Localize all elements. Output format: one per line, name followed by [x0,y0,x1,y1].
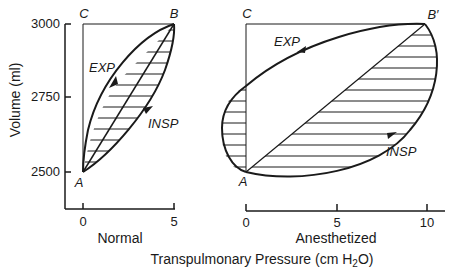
y-axis-title: Volume (ml) [7,63,23,138]
point-a-label: A [238,174,248,189]
point-a-label: A [74,175,84,190]
insp-label: INSP [386,144,417,159]
x-tick-0: 0 [79,214,86,229]
normal-panel-title: Normal [97,230,142,246]
y-tick-2500: 2500 [31,164,60,179]
point-b-label: B [170,6,179,21]
y-tick-2750: 2750 [31,89,60,104]
anesthetized-panel-title: Anesthetized [296,230,377,246]
x-tick-0: 0 [242,215,249,230]
insp-arrow-icon [387,132,397,139]
y-tick-3000: 3000 [31,16,60,31]
point-c-label: C [79,6,89,21]
x-tick-5: 5 [333,215,340,230]
x-axis-title: Transpulmonary Pressure (cm H2O) [151,251,374,268]
normal-panel: 3000 2750 2500 0 5 C B A EXP INSP Normal [31,6,180,246]
point-b-prime-label: B′ [427,7,439,22]
anesthetized-panel: C B′ A EXP INSP 0 5 10 Anesthetized [215,6,450,246]
x-tick-10: 10 [420,215,434,230]
point-c-label: C [242,6,252,21]
x-tick-5: 5 [170,214,177,229]
exp-label: EXP [89,60,115,75]
pressure-volume-diagram: 3000 2750 2500 0 5 C B A EXP INSP Normal… [0,0,454,268]
insp-label: INSP [148,116,179,131]
exp-label: EXP [274,34,300,49]
